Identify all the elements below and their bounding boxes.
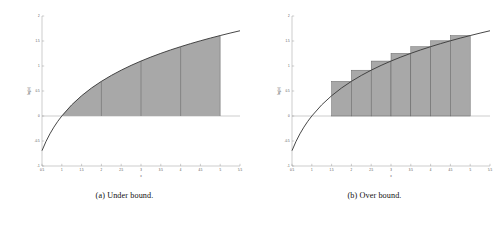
y-tick-label: 1.5 xyxy=(285,39,289,43)
x-tick-label: 5 xyxy=(469,168,471,172)
x-tick-label: 5 xyxy=(219,168,221,172)
y-tick-label: 0.5 xyxy=(35,89,39,93)
x-tick-label: 5.5 xyxy=(488,168,492,172)
y-tick-label: 0 xyxy=(288,114,290,118)
y-tick-label: -0.5 xyxy=(285,139,290,143)
riemann-bar xyxy=(371,61,391,116)
x-axis-title: x xyxy=(140,174,142,178)
riemann-bar xyxy=(391,53,411,116)
x-tick-label: 3.5 xyxy=(409,168,413,172)
y-tick-label: 1 xyxy=(38,64,40,68)
riemann-bar xyxy=(450,36,470,116)
riemann-bar xyxy=(351,70,371,116)
x-tick-label: 3 xyxy=(140,168,142,172)
y-tick-label: 1.5 xyxy=(35,39,39,43)
x-tick-label: 2 xyxy=(101,168,103,172)
y-tick-label: 2 xyxy=(288,14,290,18)
y-tick-label: -1 xyxy=(37,164,40,168)
x-tick-label: 2 xyxy=(351,168,353,172)
x-tick-label: 1 xyxy=(61,168,63,172)
over-bound-chart: 0.511.522.533.544.555.5-1-0.500.511.52xl… xyxy=(250,0,499,190)
y-tick-label: -1 xyxy=(287,164,290,168)
y-axis-title: log(x) xyxy=(277,87,281,95)
x-tick-label: 1 xyxy=(311,168,313,172)
panel-over-bound: 0.511.522.533.544.555.5-1-0.500.511.52xl… xyxy=(250,0,499,226)
x-tick-label: 4.5 xyxy=(448,168,452,172)
x-tick-label: 1.5 xyxy=(80,168,84,172)
x-tick-label: 1.5 xyxy=(330,168,334,172)
x-tick-label: 4.5 xyxy=(198,168,202,172)
caption-under-bound: (a) Under bound. xyxy=(96,191,154,200)
x-tick-label: 3 xyxy=(390,168,392,172)
x-tick-label: 0.5 xyxy=(290,168,294,172)
y-tick-label: 0 xyxy=(38,114,40,118)
plot-under-bound: 0.511.522.533.544.555.5-1-0.500.511.52xl… xyxy=(0,0,249,190)
x-tick-label: 3.5 xyxy=(159,168,163,172)
x-tick-label: 0.5 xyxy=(40,168,44,172)
riemann-bar xyxy=(411,47,431,116)
y-tick-label: -0.5 xyxy=(35,139,40,143)
y-tick-label: 1 xyxy=(288,64,290,68)
x-tick-label: 2.5 xyxy=(119,168,123,172)
riemann-bar xyxy=(431,41,451,116)
riemann-bar xyxy=(332,81,352,116)
caption-over-bound: (b) Over bound. xyxy=(347,191,401,200)
x-tick-label: 5.5 xyxy=(238,168,242,172)
under-bound-chart: 0.511.522.533.544.555.5-1-0.500.511.52xl… xyxy=(0,0,249,190)
figure-container: 0.511.522.533.544.555.5-1-0.500.511.52xl… xyxy=(0,0,499,226)
panel-under-bound: 0.511.522.533.544.555.5-1-0.500.511.52xl… xyxy=(0,0,249,226)
x-tick-label: 4 xyxy=(430,168,432,172)
y-axis-title: log(x) xyxy=(27,87,31,95)
x-tick-label: 4 xyxy=(180,168,182,172)
x-tick-label: 2.5 xyxy=(369,168,373,172)
plot-over-bound: 0.511.522.533.544.555.5-1-0.500.511.52xl… xyxy=(250,0,499,190)
y-tick-label: 0.5 xyxy=(285,89,289,93)
x-axis-title: x xyxy=(390,174,392,178)
y-tick-label: 2 xyxy=(38,14,40,18)
